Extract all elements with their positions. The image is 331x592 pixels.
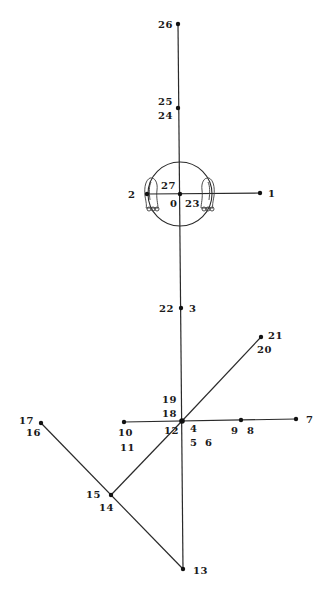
node-point-n13 (181, 567, 185, 571)
node-label-8: 8 (247, 425, 254, 436)
node-label-3: 3 (189, 303, 196, 314)
node-label-24: 24 (158, 110, 173, 121)
node-point-n21 (259, 335, 263, 339)
node-label-4: 4 (190, 423, 197, 434)
edge-n12-n21 (182, 337, 261, 421)
node-label-22: 22 (159, 303, 174, 314)
node-label-23: 23 (185, 198, 200, 209)
node-label-15: 15 (86, 489, 101, 500)
node-point-n17 (39, 421, 43, 425)
node-label-27: 27 (161, 180, 176, 191)
node-label-18: 18 (162, 408, 177, 419)
node-point-n7 (294, 417, 298, 421)
node-label-13: 13 (193, 565, 208, 576)
node-label-1: 1 (268, 188, 275, 199)
node-label-10: 10 (118, 427, 133, 438)
node-point-n9 (239, 418, 243, 422)
node-label-12: 12 (164, 425, 179, 436)
node-point-n1 (258, 191, 262, 195)
node-label-20: 20 (257, 344, 272, 355)
edge-n2-n1 (147, 193, 260, 194)
node-label-5: 5 (190, 437, 197, 448)
node-point-n3 (179, 306, 183, 310)
node-point-n0 (178, 192, 182, 196)
node-label-6: 6 (205, 437, 212, 448)
diagram-labels: 2625242721023223212019187101249811561716… (19, 19, 313, 576)
node-label-21: 21 (268, 330, 283, 341)
node-point-n15 (109, 493, 113, 497)
node-label-17: 17 (19, 415, 34, 426)
node-point-n26 (176, 22, 180, 26)
edge-n10-n7 (124, 419, 296, 422)
node-label-25: 25 (158, 96, 173, 107)
node-label-19: 19 (162, 394, 177, 405)
node-label-16: 16 (26, 427, 41, 438)
node-label-11: 11 (120, 442, 135, 453)
node-label-7: 7 (306, 414, 313, 425)
node-point-n10 (122, 420, 126, 424)
node-point-n2 (145, 192, 149, 196)
node-label-14: 14 (99, 502, 114, 513)
node-label-0: 0 (170, 198, 177, 209)
edge-n26-n13 (178, 24, 183, 569)
node-label-9: 9 (231, 425, 238, 436)
node-point-n12 (179, 418, 185, 424)
skeleton-diagram: 2625242721023223212019187101249811561716… (0, 0, 331, 592)
node-label-2: 2 (128, 189, 135, 200)
node-point-n24 (176, 106, 180, 110)
node-label-26: 26 (158, 19, 173, 30)
